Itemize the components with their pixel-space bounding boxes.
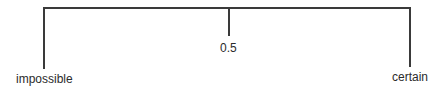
probability-scale-diagram: impossible 0.5 certain: [0, 0, 444, 89]
label-half: 0.5: [220, 41, 237, 55]
scale-top-line: [43, 7, 411, 9]
middle-tick-half: [228, 7, 230, 36]
label-impossible: impossible: [16, 72, 73, 86]
label-certain: certain: [392, 70, 428, 84]
left-tick-impossible: [43, 7, 45, 69]
right-tick-certain: [409, 7, 411, 67]
